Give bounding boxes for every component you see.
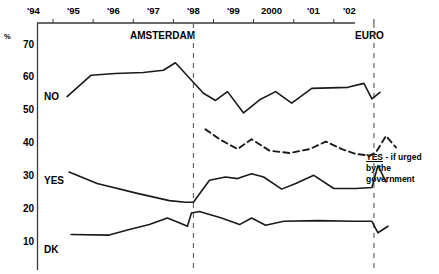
- series-lines: [67, 63, 396, 235]
- series-line-2: [69, 165, 386, 202]
- plot-area: [0, 0, 439, 274]
- series-line-0: [67, 63, 380, 113]
- chart-container: % 70 60 50 40 30 20 10 '94 '95 '96 '97 '…: [0, 0, 439, 274]
- series-line-3: [71, 211, 388, 235]
- series-line-1: [205, 129, 396, 155]
- event-marker-lines: [193, 23, 373, 270]
